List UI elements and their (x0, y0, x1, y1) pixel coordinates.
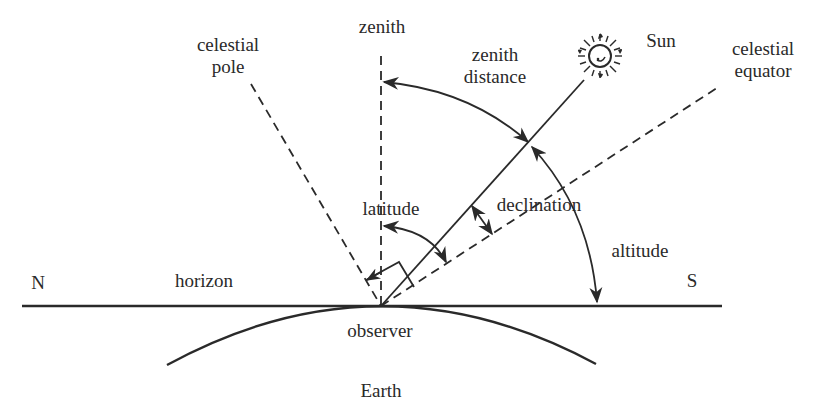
label-altitude: altitude (600, 240, 680, 262)
zenith-distance-arc (384, 82, 528, 142)
label-zenith-distance: zenith distance (450, 44, 540, 88)
label-horizon: horizon (162, 270, 246, 292)
pole-perpendicular-arrow (367, 272, 381, 280)
celestial-pole-line (251, 84, 381, 306)
label-south: S (682, 270, 702, 292)
label-north: N (28, 272, 48, 294)
label-earth: Earth (348, 380, 414, 402)
right-angle-marker (366, 262, 414, 287)
label-celestial-equator: celestial equator (718, 38, 808, 82)
label-celestial-pole: celestial pole (183, 34, 273, 78)
label-observer: observer (332, 320, 428, 342)
label-sun: Sun (636, 30, 686, 52)
label-zenith: zenith (350, 16, 414, 38)
sun-icon (578, 33, 622, 78)
sun-direction-line (381, 80, 584, 306)
label-latitude: latitude (350, 198, 432, 220)
label-declination: declination (484, 194, 594, 216)
altitude-arc (532, 147, 597, 302)
